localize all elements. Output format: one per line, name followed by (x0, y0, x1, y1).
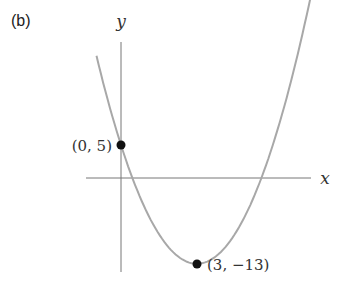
point-y-intercept (117, 141, 126, 150)
point-label-y-intercept: (0, 5) (72, 137, 112, 155)
y-axis-label: y (115, 11, 126, 31)
parabola-curve (97, 0, 323, 264)
point-label-vertex: (3, −13) (207, 256, 269, 274)
graph: y x (0, 5) (3, −13) (0, 0, 342, 285)
x-axis-label: x (320, 168, 330, 188)
point-vertex (193, 260, 202, 269)
